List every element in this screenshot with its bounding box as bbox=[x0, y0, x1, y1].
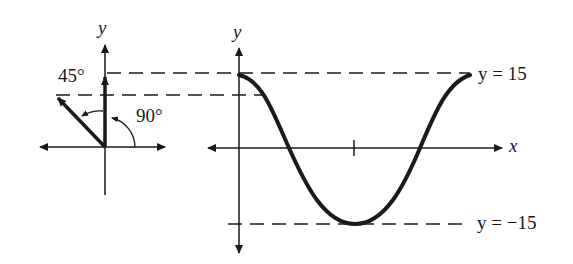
angle-90-label: 90° bbox=[136, 106, 163, 125]
angle-45-label: 45° bbox=[58, 66, 85, 85]
phasor-y-label: y bbox=[98, 18, 106, 37]
min-value-label: y = −15 bbox=[477, 213, 536, 232]
phasor-vectors bbox=[58, 77, 105, 147]
diagram-canvas: y 45° 90° y x y = 15 y = −15 bbox=[0, 0, 573, 264]
graph-y-label: y bbox=[233, 22, 241, 41]
max-value-label: y = 15 bbox=[478, 64, 527, 83]
graph-x-label: x bbox=[509, 136, 517, 155]
